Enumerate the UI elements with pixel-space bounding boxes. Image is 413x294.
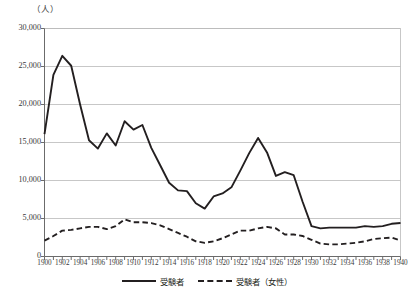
line-chart: （人） 30,00025,00020,00015,00010,0005,0000… [0,0,413,294]
x-tick-label: 1914 [162,260,176,267]
x-tick-label: 1932 [322,260,336,267]
series-line-1 [45,219,401,244]
legend-swatch-dashed [198,280,232,282]
x-tick-label: 1908 [109,260,123,267]
x-tick-label: 1924 [251,260,265,267]
x-tick-label: 1906 [91,260,105,267]
x-tick-label: 1900 [37,260,51,267]
x-tick-label: 1936 [358,260,372,267]
legend-label: 受験者 [160,275,184,287]
legend-swatch-solid [122,280,156,282]
x-tick-label: 1928 [287,260,301,267]
x-tick-label: 1926 [269,260,283,267]
x-tick-label: 1910 [126,260,140,267]
legend-item-0: 受験者 [122,275,184,287]
x-tick-label: 1918 [198,260,212,267]
x-tick-label: 1916 [180,260,194,267]
x-tick-label: 1920 [215,260,229,267]
x-tick-label: 1934 [340,260,354,267]
x-tick-label: 1938 [376,260,390,267]
x-tick-label: 1930 [304,260,318,267]
x-tick-label: 1912 [144,260,158,267]
x-tick-label: 1940 [393,260,407,267]
x-tick-label: 1922 [233,260,247,267]
chart-legend: 受験者受験者（女性） [0,272,413,290]
legend-label: 受験者（女性） [236,275,292,287]
legend-item-1: 受験者（女性） [198,275,292,287]
x-tick-label: 1904 [73,260,87,267]
plot-area [0,0,413,294]
x-tick-label: 1902 [55,260,69,267]
